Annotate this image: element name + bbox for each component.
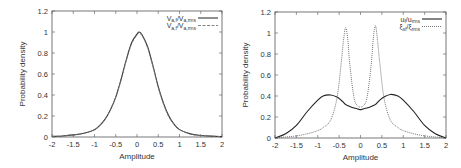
right-panel: -2-1.5-1-0.500.511.5200.20.40.60.811.2Am… xyxy=(241,8,448,162)
x-tick-label: 0 xyxy=(135,140,139,149)
series-line-1 xyxy=(52,33,222,137)
y-tick-label: 0.4 xyxy=(38,91,48,100)
y-tick-label: 1 xyxy=(267,29,271,38)
legend-label: Va,f/Va,rms xyxy=(167,22,197,31)
plot-frame xyxy=(52,11,222,137)
x-tick-label: 0.5 xyxy=(153,140,163,149)
plot-frame xyxy=(275,12,446,138)
x-tick-label: 2 xyxy=(444,141,448,150)
x-axis-label: Amplitude xyxy=(343,153,379,162)
y-tick-label: 0.8 xyxy=(38,49,48,58)
y-tick-label: 0.2 xyxy=(38,112,48,121)
y-tick-label: 0.6 xyxy=(38,70,48,79)
x-axis-label: Amplitude xyxy=(119,152,155,161)
series-line-1 xyxy=(275,26,446,138)
x-tick-label: 0.5 xyxy=(377,141,387,150)
y-tick-label: 0.4 xyxy=(261,92,271,101)
series-line-0 xyxy=(275,94,446,138)
x-tick-label: -2 xyxy=(49,140,56,149)
x-tick-label: -1.5 xyxy=(67,140,80,149)
x-tick-label: 1 xyxy=(177,140,181,149)
x-tick-label: -0.5 xyxy=(109,140,122,149)
x-tick-label: -1 xyxy=(91,140,98,149)
two-panel-chart: -2-1.5-1-0.500.511.5200.20.40.60.811.2Am… xyxy=(0,0,461,168)
x-tick-label: -1.5 xyxy=(290,141,303,150)
x-tick-label: -1 xyxy=(314,141,321,150)
y-tick-label: 1.2 xyxy=(261,8,271,17)
x-tick-label: 1.5 xyxy=(419,141,429,150)
y-tick-label: 0 xyxy=(44,133,48,142)
left-panel: -2-1.5-1-0.500.511.5200.20.40.60.811.2Am… xyxy=(18,7,224,161)
legend-label: ξsf/ξrms xyxy=(400,23,421,32)
y-tick-label: 0.8 xyxy=(261,50,271,59)
x-tick-label: 0 xyxy=(358,141,362,150)
y-tick-label: 0 xyxy=(267,134,271,143)
x-tick-label: -0.5 xyxy=(333,141,346,150)
figure: -2-1.5-1-0.500.511.5200.20.40.60.811.2Am… xyxy=(0,0,461,168)
x-tick-label: 1.5 xyxy=(196,140,206,149)
series-line-0 xyxy=(52,32,222,137)
y-axis-label: Probability density xyxy=(18,42,27,107)
x-tick-label: -2 xyxy=(272,141,279,150)
x-tick-label: 2 xyxy=(220,140,224,149)
y-tick-label: 0.2 xyxy=(261,113,271,122)
y-axis-label: Probability density xyxy=(241,43,250,108)
x-tick-label: 1 xyxy=(401,141,405,150)
y-tick-label: 0.6 xyxy=(261,71,271,80)
y-tick-label: 1 xyxy=(44,28,48,37)
y-tick-label: 1.2 xyxy=(38,7,48,16)
